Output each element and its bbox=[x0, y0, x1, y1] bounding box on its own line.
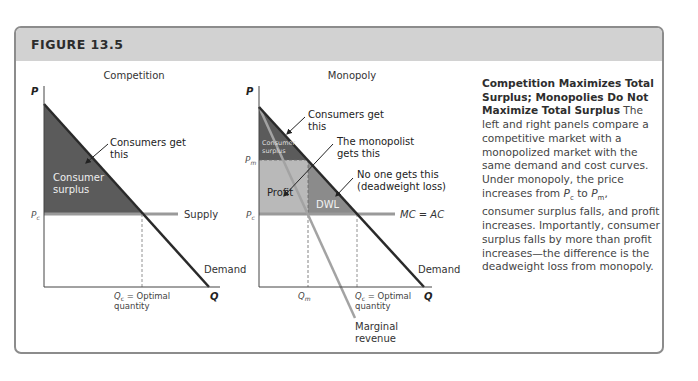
q-axis-label: Q bbox=[210, 291, 219, 302]
marginal-revenue-label-line2: revenue bbox=[355, 333, 396, 344]
consumers-get-annotation: Consumers get bbox=[308, 109, 384, 120]
q-axis-label: Q bbox=[424, 291, 433, 302]
monopolist-annotation-line2: gets this bbox=[337, 148, 380, 159]
demand-label: Demand bbox=[204, 264, 246, 275]
p-axis-label: P bbox=[31, 86, 39, 97]
pm-tick-label: Pm bbox=[245, 155, 256, 166]
consumer-surplus-label-line2: surplus bbox=[53, 184, 89, 195]
consumer-surplus-label-line2: surplus bbox=[262, 147, 286, 155]
deadweight-loss-annotation-line2: (deadweight loss) bbox=[357, 181, 446, 192]
monopolist-annotation: The monopolist bbox=[336, 136, 414, 147]
profit-label: Profit bbox=[267, 187, 293, 198]
demand-label: Demand bbox=[418, 264, 460, 275]
arrow-icon bbox=[287, 117, 305, 134]
qc-tick-label-line2: quantity bbox=[114, 301, 149, 311]
qm-tick-label: Qm bbox=[298, 291, 311, 302]
arrow-icon bbox=[336, 178, 353, 196]
consumer-surplus-label: Consumer bbox=[53, 172, 105, 183]
dwl-label: DWL bbox=[316, 199, 340, 210]
mc-ac-label: MC = AC bbox=[400, 209, 444, 220]
consumers-get-annotation-line2: this bbox=[308, 121, 326, 132]
consumers-get-annotation: Consumers get bbox=[110, 137, 186, 148]
consumers-get-annotation-line2: this bbox=[110, 149, 128, 160]
p-axis-label: P bbox=[246, 86, 254, 97]
figure-caption: Competition Maximizes Total Surplus; Mon… bbox=[482, 77, 662, 274]
monopoly-title: Monopoly bbox=[328, 70, 376, 81]
deadweight-loss-annotation: No one gets this bbox=[357, 169, 439, 180]
pc-tick-label: Pc bbox=[31, 210, 40, 221]
competition-chart: Competition P Q Pc Qc = Optimal quantity… bbox=[31, 70, 246, 311]
monopoly-chart: Monopoly P Q Pm Pc Qm Qc = Optimal quant… bbox=[245, 70, 460, 344]
consumer-surplus-label: Consumer bbox=[262, 139, 295, 147]
caption-body-1: The left and right panels compare a comp… bbox=[482, 104, 649, 198]
marginal-revenue-label: Marginal bbox=[355, 321, 398, 332]
competition-title: Competition bbox=[103, 70, 164, 81]
pc-tick-label: Pc bbox=[246, 210, 255, 221]
supply-label: Supply bbox=[184, 209, 218, 220]
qc-tick-label-line2: quantity bbox=[355, 301, 390, 311]
